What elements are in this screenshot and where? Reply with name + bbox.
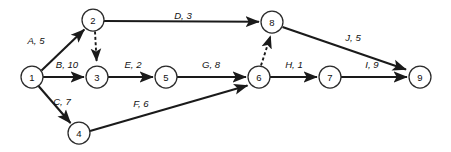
node-8[interactable]: 8 [261,11,283,33]
node-1-label: 1 [29,72,34,83]
node-5[interactable]: 5 [155,66,177,88]
edge-label-E: E, 2 [124,59,142,70]
node-7-label: 7 [327,72,332,83]
edge-label-I: I, 9 [365,59,379,70]
edge-label-B: B, 10 [56,59,79,70]
edge-label-J: J, 5 [344,32,361,43]
node-9-label: 9 [417,72,422,83]
edge-dummy-6-8-line [261,36,271,66]
network-diagram-canvas: 1 2 3 4 5 6 7 [0,0,451,152]
node-6[interactable]: 6 [248,66,270,88]
node-6-label: 6 [256,72,261,83]
node-2[interactable]: 2 [82,9,104,31]
edge-D-line [104,21,259,22]
node-4[interactable]: 4 [68,122,90,144]
node-3-label: 3 [94,72,99,83]
edge-labels-layer: A, 5 B, 10 C, 7 D, 3 E, 2 F, 6 G, 8 H, 1… [26,10,379,109]
edge-dummy-2-3-line [95,32,97,62]
node-3[interactable]: 3 [86,66,108,88]
edge-label-G: G, 8 [202,59,221,70]
node-5-label: 5 [163,72,168,83]
edge-label-A: A, 5 [26,35,45,46]
network-diagram: 1 2 3 4 5 6 7 [0,0,451,152]
node-4-label: 4 [76,128,81,139]
edge-label-C: C, 7 [53,96,71,107]
edge-label-D: D, 3 [174,10,192,21]
node-8-label: 8 [269,17,274,28]
node-1[interactable]: 1 [21,66,43,88]
node-7[interactable]: 7 [319,66,341,88]
node-2-label: 2 [90,15,95,26]
node-9[interactable]: 9 [409,66,431,88]
edge-label-H: H, 1 [285,59,303,70]
edge-label-F: F, 6 [133,98,149,109]
edge-F-line [90,86,248,132]
